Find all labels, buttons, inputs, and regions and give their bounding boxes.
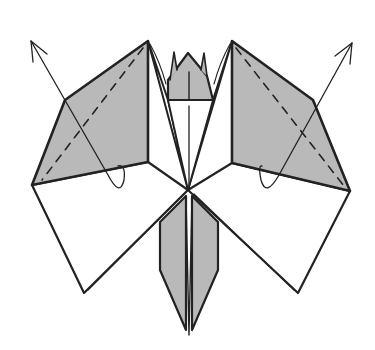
- right-arrowhead-icon: [335, 43, 352, 64]
- diagram-canvas: [0, 0, 375, 350]
- origami-diagram: Origami folding step: [0, 0, 375, 350]
- left-upper-flap: [32, 41, 148, 185]
- tail-right: [192, 196, 218, 330]
- tail-left: [160, 196, 186, 330]
- right-upper-flap: [232, 41, 350, 191]
